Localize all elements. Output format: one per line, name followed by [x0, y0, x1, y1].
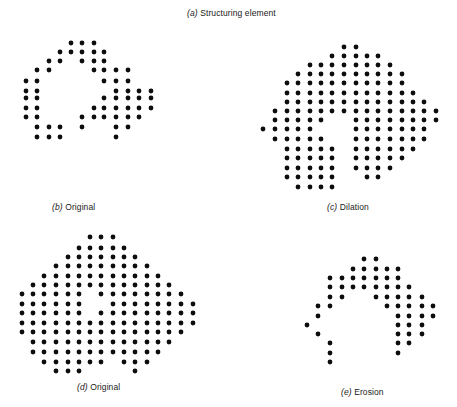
- dot: [137, 106, 142, 111]
- panel-c-dilation-dots: [261, 45, 439, 190]
- dot: [92, 106, 97, 111]
- dot: [133, 264, 138, 269]
- dot: [285, 147, 290, 152]
- dot: [88, 255, 93, 260]
- dot: [340, 285, 345, 290]
- dot: [99, 360, 104, 365]
- dot: [354, 127, 359, 132]
- dot: [66, 264, 71, 269]
- dot: [69, 41, 74, 46]
- panel-e-caption: (e) Erosion: [341, 387, 384, 397]
- dot: [407, 332, 412, 337]
- dot: [54, 274, 59, 279]
- dot: [35, 106, 40, 111]
- dot: [145, 264, 150, 269]
- dot: [328, 304, 333, 309]
- dot: [88, 235, 93, 240]
- dot: [24, 115, 29, 120]
- dot: [66, 292, 71, 297]
- dot: [342, 100, 347, 105]
- dot: [422, 118, 427, 123]
- dot: [88, 360, 93, 365]
- dot: [54, 321, 59, 326]
- dot: [122, 311, 127, 316]
- dot: [114, 96, 119, 101]
- dot: [54, 369, 59, 374]
- dot: [365, 100, 370, 105]
- dot: [99, 255, 104, 260]
- dot: [285, 166, 290, 171]
- dot: [42, 311, 47, 316]
- dot: [92, 41, 97, 46]
- dot: [273, 118, 278, 123]
- dot: [20, 292, 25, 297]
- dot: [77, 321, 82, 326]
- dot: [285, 81, 290, 86]
- dot: [296, 185, 301, 190]
- dot: [20, 302, 25, 307]
- dot: [400, 147, 405, 152]
- dot: [330, 166, 335, 171]
- dot: [77, 283, 82, 288]
- dot: [80, 59, 85, 64]
- dot: [167, 340, 172, 345]
- dot: [407, 323, 412, 328]
- dot: [319, 91, 324, 96]
- dot: [179, 311, 184, 316]
- dot: [354, 109, 359, 114]
- dot: [99, 235, 104, 240]
- dot: [365, 72, 370, 77]
- dot: [42, 340, 47, 345]
- dot: [365, 166, 370, 171]
- dot: [31, 321, 36, 326]
- dot: [434, 118, 439, 123]
- dot: [385, 304, 390, 309]
- dot: [396, 314, 401, 319]
- panel-b-caption: (b) Original: [52, 202, 95, 212]
- dot: [77, 274, 82, 279]
- dot: [376, 175, 381, 180]
- dot: [77, 264, 82, 269]
- dot: [354, 54, 359, 59]
- dot: [319, 100, 324, 105]
- dot: [400, 81, 405, 86]
- dot: [88, 340, 93, 345]
- dot: [319, 109, 324, 114]
- dot: [388, 81, 393, 86]
- dot: [31, 283, 36, 288]
- dot: [388, 137, 393, 142]
- dot: [167, 311, 172, 316]
- dot: [351, 276, 356, 281]
- dot: [137, 115, 142, 120]
- dot: [407, 295, 412, 300]
- dot: [191, 311, 196, 316]
- dot: [285, 109, 290, 114]
- dot: [308, 91, 313, 96]
- dot: [35, 89, 40, 94]
- dot: [388, 63, 393, 68]
- dot: [77, 350, 82, 355]
- dot: [330, 156, 335, 161]
- dot: [411, 127, 416, 132]
- dot: [35, 125, 40, 130]
- dot: [20, 330, 25, 335]
- dot: [133, 340, 138, 345]
- dot: [114, 79, 119, 84]
- dot: [66, 274, 71, 279]
- dot: [122, 302, 127, 307]
- dot: [319, 72, 324, 77]
- dot: [319, 156, 324, 161]
- dot: [319, 166, 324, 171]
- dot: [179, 302, 184, 307]
- dot: [77, 340, 82, 345]
- dot: [114, 68, 119, 73]
- dot: [92, 50, 97, 55]
- dot: [388, 147, 393, 152]
- dot: [133, 311, 138, 316]
- dot: [156, 350, 161, 355]
- dot: [296, 109, 301, 114]
- dot: [328, 351, 333, 356]
- dot: [156, 340, 161, 345]
- panel-d-original-dots: [20, 235, 196, 374]
- dot: [376, 137, 381, 142]
